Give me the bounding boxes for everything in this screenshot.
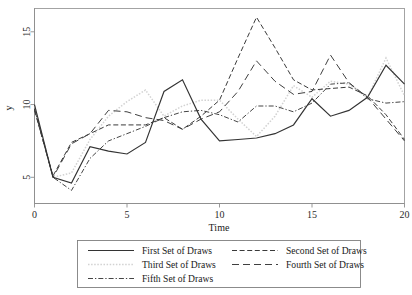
x-tick-label: 20 [400, 209, 410, 220]
series-layer [35, 17, 405, 190]
legend-entry-label: First Set of Draws [142, 245, 212, 256]
y-tick-label: 15 [21, 27, 32, 37]
legend-entry-label: Fifth Set of Draws [142, 273, 213, 284]
chart-legend: First Set of DrawsSecond Set of DrawsThi… [78, 241, 367, 288]
legend-entry-label: Third Set of Draws [142, 259, 216, 270]
x-axis-title: Time [209, 222, 230, 233]
x-tick-label: 10 [215, 209, 225, 220]
chart-figure: 51015 05101520 Time y First Set of Draws… [0, 0, 412, 295]
series-line [35, 83, 405, 191]
legend-entry-label: Fourth Set of Draws [286, 259, 364, 270]
series-line [35, 55, 405, 177]
x-axis: 05101520 [32, 204, 410, 220]
plot-frame [35, 9, 405, 204]
series-line [35, 58, 405, 177]
line-chart-canvas: 51015 05101520 Time y First Set of Draws… [0, 0, 412, 295]
y-axis-title: y [3, 106, 14, 111]
x-tick-label: 0 [32, 209, 37, 220]
x-tick-label: 15 [307, 209, 317, 220]
series-line [35, 17, 405, 176]
y-tick-label: 5 [21, 175, 32, 180]
legend-entry-label: Second Set of Draws [286, 245, 367, 256]
y-axis: 51015 [21, 9, 35, 204]
y-tick-label: 10 [21, 100, 32, 110]
x-tick-label: 5 [125, 209, 130, 220]
